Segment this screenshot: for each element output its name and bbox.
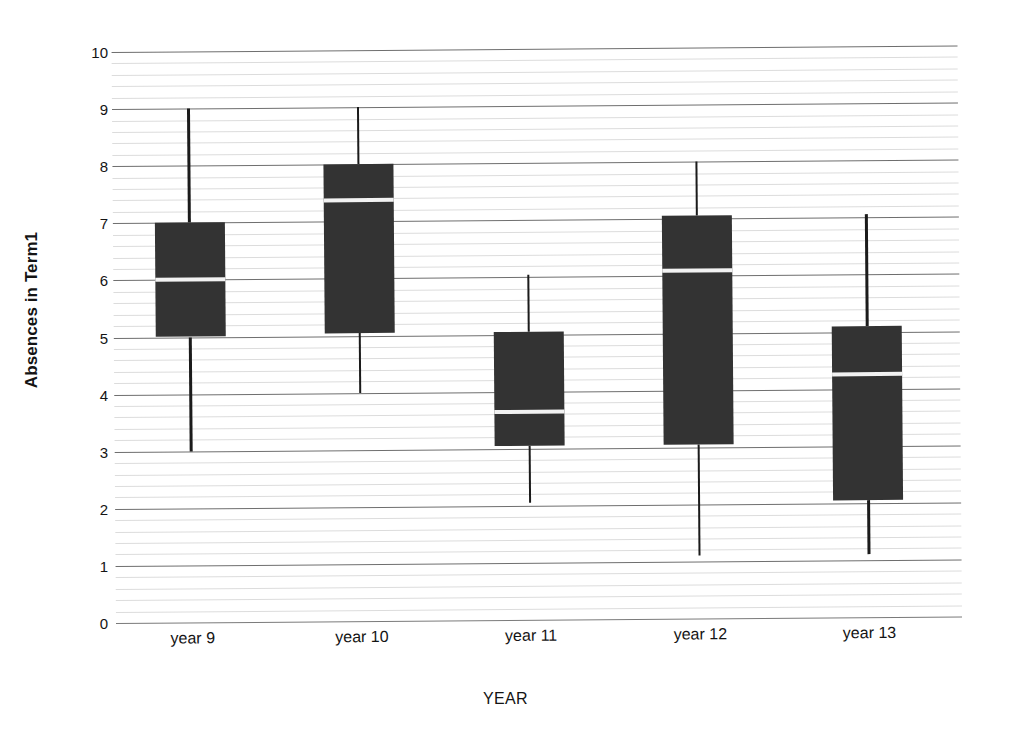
- x-axis-tick-label: year 12: [620, 625, 780, 644]
- x-axis-tick-label: year 13: [789, 623, 949, 642]
- y-axis-tick-label: 4: [68, 386, 108, 403]
- box-plot-chart: year 9year 10year 11year 12year 13 01234…: [0, 0, 1011, 746]
- y-axis-tick-label: 8: [68, 158, 108, 175]
- y-axis-tick-label: 10: [68, 44, 108, 61]
- x-axis-tick-label: year 9: [113, 629, 273, 648]
- x-axis-title: YEAR: [0, 690, 1011, 708]
- y-axis-tick-label: 5: [68, 329, 108, 346]
- y-axis-tick-label: 9: [68, 101, 108, 118]
- y-axis-tick-labels: 012345678910: [68, 0, 108, 746]
- x-axis-tick-labels: year 9year 10year 11year 12year 13: [111, 0, 963, 746]
- y-axis-tick-label: 0: [68, 615, 108, 632]
- y-axis-tick-label: 6: [68, 272, 108, 289]
- y-axis-title: Absences in Term1: [22, 160, 42, 460]
- y-axis-tick-label: 7: [68, 215, 108, 232]
- x-axis-tick-label: year 10: [282, 627, 442, 646]
- y-axis-tick-label: 2: [68, 500, 108, 517]
- y-axis-tick-label: 1: [68, 557, 108, 574]
- x-axis-tick-label: year 11: [451, 626, 611, 645]
- y-axis-tick-label: 3: [68, 443, 108, 460]
